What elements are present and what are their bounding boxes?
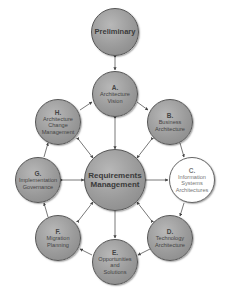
phase-label: Technology Architecture [155, 235, 185, 248]
phase-d-node: D. Technology Architecture [147, 215, 193, 261]
phase-letter: F. [55, 228, 60, 235]
requirements-management-label: Requirements Management [88, 171, 141, 189]
requirements-management-node: Requirements Management [84, 149, 146, 211]
phase-a-node: A. Architecture Vision [92, 71, 138, 117]
phase-letter: B. [167, 112, 174, 119]
phase-e-node: E. Opportunities and Solutions [92, 239, 138, 285]
phase-f-node: F. Migration Planning [35, 215, 81, 261]
phase-letter: A. [112, 84, 119, 91]
phase-letter: H. [55, 109, 62, 116]
phase-label: Opportunities and Solutions [98, 256, 131, 276]
phase-label: Implementation Governance [19, 177, 57, 190]
phase-label: Architecture Vision [100, 91, 130, 104]
phase-label: Migration Planning [46, 235, 69, 248]
phase-letter: D. [167, 228, 174, 235]
preliminary-label: Preliminary [95, 29, 136, 36]
phase-h-node: H. Architecture Change Management [35, 99, 81, 145]
phase-letter: C. [189, 167, 196, 174]
phase-c-node: C. Information Systems Architectures [169, 157, 215, 203]
phase-letter: G. [35, 170, 42, 177]
phase-label: Business Architecture [155, 119, 185, 132]
phase-b-node: B. Business Architecture [147, 99, 193, 145]
phase-g-node: G. Implementation Governance [15, 157, 61, 203]
phase-label: Architecture Change Management [42, 116, 75, 136]
phase-letter: E. [112, 249, 118, 256]
phase-label: Information Systems Architectures [176, 174, 209, 194]
preliminary-node: Preliminary [91, 8, 139, 56]
